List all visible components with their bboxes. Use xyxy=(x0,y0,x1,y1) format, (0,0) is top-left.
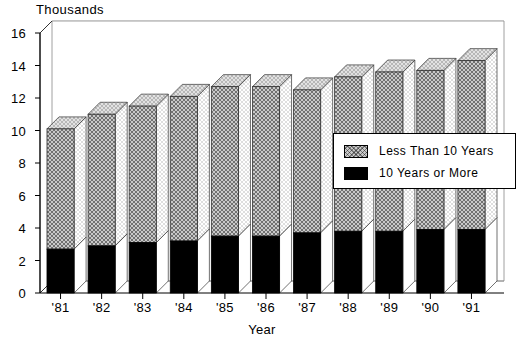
legend: Less Than 10 Years 10 Years or More xyxy=(333,133,516,189)
legend-swatch-10-years-or-more xyxy=(344,167,368,180)
x-axis-title: Year xyxy=(0,322,524,337)
stacked-bar-chart: Thousands 0246810121416 '81'82'83'84'85'… xyxy=(0,0,524,354)
legend-label-10-years-or-more: 10 Years or More xyxy=(379,166,478,180)
legend-item: 10 Years or More xyxy=(344,162,515,184)
legend-label-less-than-10-years: Less Than 10 Years xyxy=(379,144,494,158)
legend-swatch-less-than-10-years xyxy=(344,145,368,158)
legend-item: Less Than 10 Years xyxy=(344,140,515,162)
